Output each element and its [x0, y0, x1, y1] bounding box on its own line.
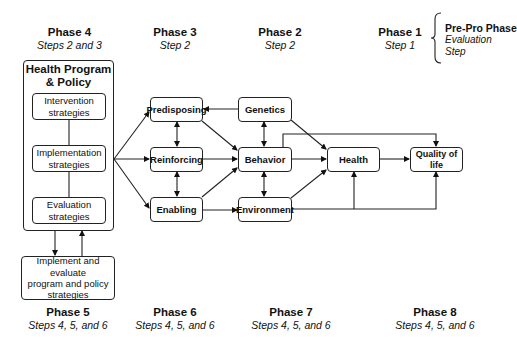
phase-7-label: Phase 7 Steps 4, 5, and 6 [241, 306, 341, 331]
node-health: Health [327, 147, 380, 172]
health-program-policy-title: Health Program & Policy [23, 63, 114, 89]
implement-evaluate-box: Implement and evaluateprogram and policy… [21, 256, 115, 300]
phase-4-label: Phase 4 Steps 2 and 3 [22, 26, 117, 51]
node-quality-of-life: Quality of life [410, 147, 463, 172]
intervention-strategies-box: Interventionstrategies [32, 93, 106, 120]
node-predisposing: Predisposing [150, 97, 203, 122]
phase-6-label: Phase 6 Steps 4, 5, and 6 [125, 306, 225, 331]
node-reinforcing: Reinforcing [150, 147, 203, 172]
phase-5-label: Phase 5 Steps 4, 5, and 6 [18, 306, 118, 331]
node-environment: Environment [238, 197, 292, 222]
phase-8-label: Phase 8 Steps 4, 5, and 6 [385, 306, 485, 331]
phase-2-label: Phase 2 Step 2 [250, 26, 310, 51]
node-genetics: Genetics [238, 97, 292, 122]
implementation-strategies-box: Implementationstrategies [32, 145, 106, 172]
evaluation-strategies-box: Evaluationstrategies [32, 197, 106, 224]
node-enabling: Enabling [150, 197, 203, 222]
phase-1-label: Phase 1 Step 1 [370, 26, 430, 51]
pre-pro-phase-label: Pre-Pro Phase Evaluation Step [445, 22, 495, 57]
node-behavior: Behavior [238, 147, 292, 172]
bracket [431, 13, 441, 63]
phase-3-label: Phase 3 Step 2 [135, 26, 215, 51]
